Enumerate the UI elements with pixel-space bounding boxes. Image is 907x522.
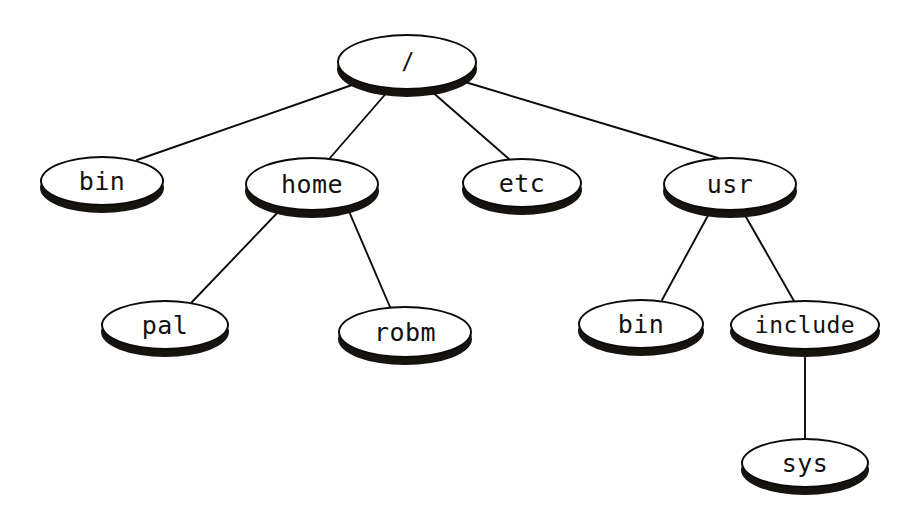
- node-label-bin: bin: [79, 169, 126, 194]
- node-label-usr: usr: [707, 172, 754, 197]
- edge-usr-to-include: [742, 210, 794, 301]
- node-include[interactable]: include: [730, 300, 880, 350]
- edge-root-to-home: [330, 90, 389, 158]
- node-home[interactable]: home: [245, 157, 379, 211]
- node-root[interactable]: /: [337, 34, 477, 90]
- edge-root-to-bin: [137, 85, 352, 160]
- node-robm[interactable]: robm: [338, 306, 472, 358]
- node-label-root: /: [400, 49, 415, 72]
- node-usr-bin[interactable]: bin: [578, 299, 704, 349]
- node-bin[interactable]: bin: [40, 156, 164, 206]
- node-label-home: home: [281, 172, 343, 197]
- node-sys[interactable]: sys: [741, 438, 869, 488]
- edge-home-to-pal: [192, 209, 281, 302]
- node-label-usr-bin: bin: [618, 312, 665, 337]
- node-label-etc: etc: [499, 171, 546, 196]
- diagram-canvas: /binhomeetcusrpalrobmbinincludesys: [0, 0, 907, 522]
- node-label-include: include: [755, 314, 855, 337]
- node-label-sys: sys: [782, 451, 829, 476]
- edge-root-to-usr: [465, 82, 718, 158]
- edge-usr-to-usr-bin: [662, 210, 711, 300]
- edge-root-to-etc: [430, 90, 509, 159]
- node-pal[interactable]: pal: [101, 300, 229, 350]
- node-label-robm: robm: [374, 320, 436, 345]
- node-usr[interactable]: usr: [663, 157, 797, 211]
- node-etc[interactable]: etc: [462, 158, 582, 208]
- node-label-pal: pal: [142, 313, 189, 338]
- edge-home-to-robm: [348, 209, 390, 307]
